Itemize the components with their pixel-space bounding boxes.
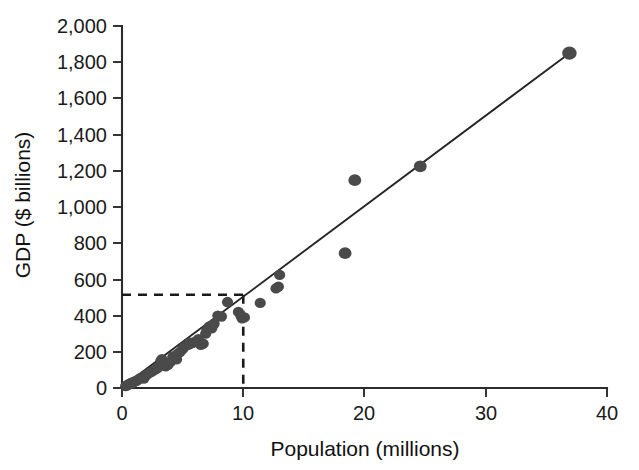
- y-tick-label: 1,000: [57, 196, 107, 218]
- y-tick-label: 1,800: [57, 51, 107, 73]
- y-tick-label: 1,400: [57, 124, 107, 146]
- y-axis-title: GDP ($ billions): [11, 132, 34, 279]
- x-tick-label: 10: [232, 402, 254, 424]
- y-tick-label: 600: [74, 269, 107, 291]
- chart-svg: 2,000 1,800 1,600 1,400 1,200 1,000 800 …: [0, 0, 639, 470]
- y-tick-label: 1,200: [57, 160, 107, 182]
- data-point: [273, 281, 284, 291]
- data-point: [255, 298, 266, 308]
- data-point: [198, 338, 209, 348]
- y-tick-label: 400: [74, 305, 107, 327]
- x-axis-title: Population (millions): [270, 437, 459, 460]
- y-axis-tick-labels: 2,000 1,800 1,600 1,400 1,200 1,000 800 …: [57, 15, 107, 399]
- y-tick-label: 2,000: [57, 15, 107, 37]
- x-tick-label: 40: [596, 402, 618, 424]
- x-tick-label: 0: [116, 402, 127, 424]
- y-tick-label: 200: [74, 341, 107, 363]
- data-point: [274, 270, 285, 280]
- data-point: [348, 174, 361, 186]
- data-point: [339, 247, 352, 259]
- y-tick-label: 800: [74, 232, 107, 254]
- trend-line: [122, 53, 569, 387]
- x-tick-label: 30: [475, 402, 497, 424]
- data-point: [239, 312, 250, 322]
- x-tick-label: 20: [353, 402, 375, 424]
- y-tick-label: 0: [96, 377, 107, 399]
- data-point: [414, 160, 427, 172]
- y-axis-ticks: [113, 26, 122, 388]
- scatter-chart: 2,000 1,800 1,600 1,400 1,200 1,000 800 …: [0, 0, 639, 470]
- x-axis-tick-labels: 0 10 20 30 40: [116, 402, 618, 424]
- data-point: [216, 311, 227, 321]
- data-point: [562, 47, 576, 60]
- x-axis-ticks: [122, 388, 607, 397]
- data-point: [222, 297, 233, 307]
- y-tick-label: 1,600: [57, 87, 107, 109]
